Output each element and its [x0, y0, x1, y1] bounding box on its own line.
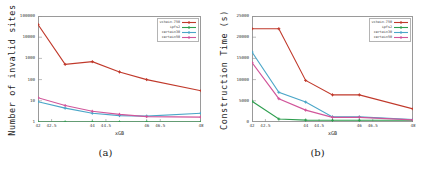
- series-point-marker: [91, 121, 94, 123]
- series-point-marker: [200, 121, 202, 123]
- series-line: [252, 63, 413, 120]
- series-point-marker: [200, 89, 202, 92]
- series-point-marker: [252, 27, 254, 30]
- legend-a: vchain-750ipfs2certain30certain50: [157, 18, 199, 42]
- legend-label: ipfs2: [382, 26, 392, 29]
- legend-item: certain50: [372, 35, 408, 40]
- x-tick-label: 46.5: [368, 124, 378, 128]
- legend-b: vchain-750ipfs2certain30certain50: [369, 18, 411, 42]
- series-point-marker: [64, 104, 67, 107]
- plot-area-a: 110100100010000100000 4242.54444.54646.5…: [38, 16, 201, 122]
- y-tick-label: 20000: [236, 35, 249, 39]
- x-tick-label: 46: [144, 124, 149, 128]
- legend-label: certain50: [162, 36, 180, 39]
- x-axis-title-b: xGB: [328, 130, 337, 136]
- series-point-marker: [304, 109, 307, 112]
- legend-label: certain30: [162, 31, 180, 34]
- y-tick-label: 10000: [236, 77, 249, 81]
- y-tick-label: 100: [27, 77, 35, 81]
- series-point-marker: [412, 107, 414, 110]
- legend-color-key: [394, 35, 408, 40]
- x-tick-label: 46.5: [155, 124, 165, 128]
- y-tick-label: 10: [30, 99, 35, 103]
- series-point-marker: [38, 96, 40, 99]
- x-tick-label: 42.5: [260, 124, 270, 128]
- y-tick-label: 1000: [25, 56, 35, 60]
- series-point-marker: [91, 60, 94, 63]
- plot-area-b: 0500010000150002000025000 4242.54444.546…: [252, 16, 413, 122]
- series-point-marker: [304, 119, 307, 122]
- caption-b: (b): [212, 147, 423, 158]
- y-axis-title-a: Number of invalid sites: [4, 0, 20, 140]
- legend-label: certain30: [374, 31, 392, 34]
- caption-a: (a): [0, 147, 211, 158]
- x-tick-label: 42: [35, 124, 40, 128]
- x-tick-label: 42: [249, 124, 254, 128]
- series-point-marker: [412, 118, 414, 121]
- series-point-marker: [145, 121, 148, 123]
- series-point-marker: [358, 116, 361, 119]
- series-point-marker: [200, 116, 202, 119]
- legend-item: certain50: [160, 35, 196, 40]
- x-tick-label: 42.5: [47, 124, 57, 128]
- series-point-marker: [64, 107, 67, 110]
- figure-two-panel-line-charts: Number of invalid sites 1101001000100001…: [0, 0, 423, 185]
- x-tick-label: 48: [198, 124, 203, 128]
- legend-label: vchain-750: [372, 21, 392, 24]
- series-point-marker: [118, 121, 121, 123]
- legend-color-key: [182, 35, 196, 40]
- series-line: [252, 52, 413, 119]
- y-tick-label: 100000: [20, 14, 35, 18]
- x-tick-label: 44: [90, 124, 95, 128]
- series-point-marker: [91, 110, 94, 113]
- series-point-marker: [200, 112, 202, 115]
- legend-label: certain50: [374, 36, 392, 39]
- y-tick-label: 15000: [236, 56, 249, 60]
- x-tick-label: 48: [410, 124, 415, 128]
- legend-label: vchain-750: [160, 21, 180, 24]
- series-point-marker: [38, 121, 40, 123]
- series-point-marker: [145, 78, 148, 81]
- panel-b: Construction Time (s) 050001000015000200…: [212, 0, 423, 185]
- y-tick-label: 25000: [236, 14, 249, 18]
- y-axis-title-b: Construction Time (s): [216, 0, 232, 140]
- series-point-marker: [358, 119, 361, 122]
- x-tick-label: 44.5: [314, 124, 324, 128]
- series-point-marker: [118, 70, 121, 73]
- series-point-marker: [331, 119, 334, 122]
- panel-a: Number of invalid sites 1101001000100001…: [0, 0, 211, 185]
- x-tick-label: 44: [303, 124, 308, 128]
- series-point-marker: [64, 121, 67, 123]
- x-tick-label: 44.5: [101, 124, 111, 128]
- legend-label: ipfs2: [170, 26, 180, 29]
- series-point-marker: [358, 93, 361, 96]
- y-tick-label: 5000: [239, 99, 249, 103]
- x-axis-title-a: xGB: [115, 130, 124, 136]
- x-tick-label: 46: [357, 124, 362, 128]
- y-tick-label: 10000: [22, 35, 35, 39]
